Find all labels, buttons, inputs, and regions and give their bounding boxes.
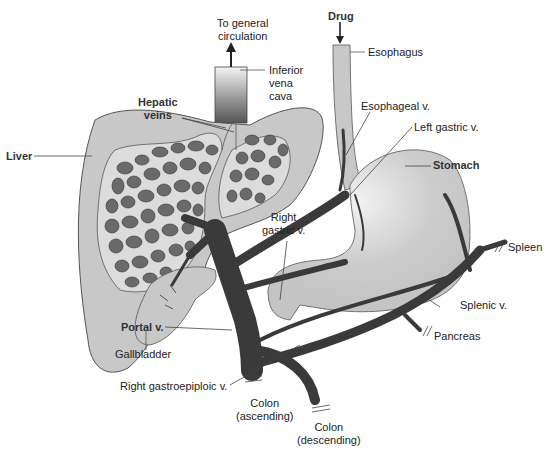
label-text: (descending) bbox=[297, 434, 361, 447]
label-right-gastric-v: Right gastric v. bbox=[262, 211, 305, 237]
label-inferior-vena-cava: Inferior vena cava bbox=[269, 64, 303, 103]
label-text: Right bbox=[262, 211, 305, 224]
label-esophagus: Esophagus bbox=[368, 46, 423, 59]
label-portal-v: Portal v. bbox=[121, 321, 164, 334]
label-text: Hepatic bbox=[138, 96, 178, 109]
label-gallbladder: Gallbladder bbox=[115, 348, 171, 361]
label-right-gastroepiploic-v: Right gastroepiploic v. bbox=[120, 380, 227, 393]
label-esophageal-v: Esophageal v. bbox=[361, 100, 430, 113]
label-splenic-v: Splenic v. bbox=[460, 299, 507, 312]
inferior-vena-cava bbox=[215, 42, 265, 123]
label-text: Colon bbox=[236, 397, 293, 410]
label-colon-descending: Colon (descending) bbox=[297, 421, 361, 447]
arrow-up-icon bbox=[226, 42, 236, 52]
label-text: Colon bbox=[297, 421, 361, 434]
label-to-general-circulation: To general circulation bbox=[217, 17, 268, 43]
label-text: veins bbox=[138, 109, 178, 122]
arrow-down-icon bbox=[336, 36, 344, 44]
label-text: gastric v. bbox=[262, 224, 305, 237]
label-text: cava bbox=[269, 90, 303, 103]
label-stomach: Stomach bbox=[433, 159, 479, 172]
label-hepatic-veins: Hepatic veins bbox=[138, 96, 178, 122]
label-colon-ascending: Colon (ascending) bbox=[236, 397, 293, 423]
label-text: vena bbox=[269, 77, 303, 90]
label-spleen: Spleen bbox=[508, 241, 542, 254]
label-text: (ascending) bbox=[236, 410, 293, 423]
label-text: To general bbox=[217, 17, 268, 30]
label-left-gastric-v: Left gastric v. bbox=[414, 121, 479, 134]
label-liver: Liver bbox=[6, 150, 32, 163]
label-pancreas: Pancreas bbox=[434, 330, 480, 343]
label-text: circulation bbox=[217, 30, 268, 43]
label-text: Inferior bbox=[269, 64, 303, 77]
label-drug: Drug bbox=[328, 10, 354, 23]
